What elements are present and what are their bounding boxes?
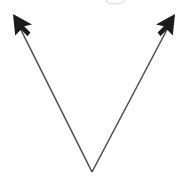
angle-diagram-svg: [0, 0, 191, 176]
figure-background: [0, 0, 191, 176]
figure-canvas: [0, 0, 191, 176]
